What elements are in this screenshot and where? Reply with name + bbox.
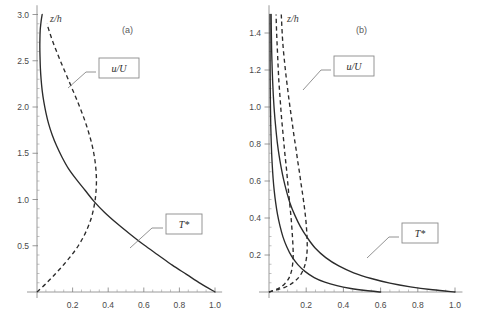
y-tick-label-b-6: 1.4 [249, 28, 261, 38]
uU-leader-line-b [303, 70, 331, 90]
x-tick-label-b-1: 0.4 [337, 300, 349, 310]
Tstar-label-a: T* [179, 219, 190, 230]
Tstar-leader-line-b [367, 237, 399, 258]
panel-a-axes: 0.20.40.60.81.00.51.01.52.02.53.0 [17, 5, 222, 310]
y-tick-label-a-2: 1.5 [17, 148, 29, 158]
panel-label-a: (a) [122, 25, 133, 35]
panel-a-svg: 0.20.40.60.81.00.51.01.52.02.53.0 u/U T*… [0, 0, 241, 322]
y-tick-label-a-1: 1.0 [17, 195, 29, 205]
y-tick-label-a-3: 2.0 [17, 102, 29, 112]
y-tick-label-b-3: 0.8 [249, 139, 261, 149]
panel-b-svg: 0.20.40.60.81.00.20.40.60.81.01.21.4 u/U… [241, 0, 482, 322]
y-tick-label-b-2: 0.6 [249, 176, 261, 186]
y-tick-label-b-1: 0.4 [249, 213, 261, 223]
uU-label-a: u/U [112, 63, 128, 74]
x-tick-label-a-0: 0.2 [67, 300, 79, 310]
uU-leader-line-a [68, 72, 96, 88]
y-tick-label-b-5: 1.2 [249, 65, 261, 75]
y-tick-label-a-4: 2.5 [17, 56, 29, 66]
x-tick-label-a-1: 0.4 [102, 300, 114, 310]
y-tick-label-a-0: 0.5 [17, 241, 29, 251]
Tstar-label-b: T* [415, 228, 426, 239]
x-tick-label-b-2: 0.6 [375, 300, 387, 310]
chart-panel-a: 0.20.40.60.81.00.51.01.52.02.53.0 u/U T*… [0, 0, 241, 322]
x-tick-label-a-2: 0.6 [138, 300, 150, 310]
x-tick-label-a-3: 0.8 [173, 300, 185, 310]
figure-container: 0.20.40.60.81.00.51.01.52.02.53.0 u/U T*… [0, 0, 483, 322]
y-tick-label-b-4: 1.0 [249, 102, 261, 112]
y-tick-label-a-5: 3.0 [17, 10, 29, 20]
panel-a-curves [37, 15, 215, 293]
yaxis-title-b: z/h [286, 13, 299, 24]
x-tick-label-a-4: 1.0 [209, 300, 221, 310]
curve-b-3 [269, 15, 293, 293]
panel-b-axes: 0.20.40.60.81.00.20.40.60.81.01.21.4 [249, 5, 462, 310]
uU-label-b: u/U [347, 61, 363, 72]
y-tick-label-b-0: 0.2 [249, 250, 261, 260]
x-tick-label-b-4: 1.0 [449, 300, 461, 310]
x-tick-label-b-3: 0.8 [412, 300, 424, 310]
curve-a-0 [40, 15, 215, 293]
curve-a-1 [37, 24, 96, 292]
x-tick-label-b-0: 0.2 [300, 300, 312, 310]
panel-label-b: (b) [356, 25, 367, 35]
yaxis-title-a: z/h [49, 13, 62, 24]
chart-panel-b: 0.20.40.60.81.00.20.40.60.81.01.21.4 u/U… [241, 0, 482, 322]
